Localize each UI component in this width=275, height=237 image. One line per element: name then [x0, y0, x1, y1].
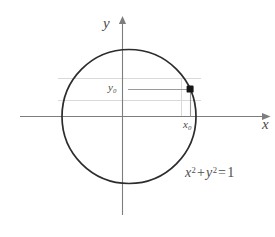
equation-equals-operator: = [217, 165, 227, 180]
x0-subscript: 0 [188, 124, 191, 131]
x-axis-label: x [262, 117, 269, 132]
equation-term2-base: y [206, 165, 212, 180]
coordinate-axes [20, 16, 271, 215]
equation-plus-operator: + [196, 165, 206, 180]
equation-term1-exponent: 2 [192, 165, 197, 175]
unit-circle-figure: y x y0 x0 x2+y2=1 [0, 0, 275, 237]
equation-term1-base: x [185, 165, 191, 180]
y-axis-arrowhead [119, 16, 126, 24]
y0-label: y0 [108, 82, 116, 93]
y-axis-label: y [103, 16, 110, 31]
equation-term2-exponent: 2 [213, 165, 218, 175]
circle-equation: x2+y2=1 [185, 166, 234, 180]
y0-subscript: 0 [113, 87, 116, 94]
x0-label: x0 [183, 119, 191, 130]
circle-point-marker [187, 86, 194, 93]
equation-value: 1 [227, 165, 234, 180]
faint-guide-lines [58, 79, 201, 117]
figure-canvas [0, 0, 275, 237]
